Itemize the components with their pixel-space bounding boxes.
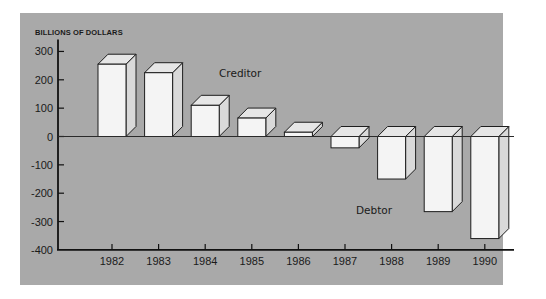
y-tick-label: 200 — [35, 74, 53, 86]
bar-1984 — [191, 95, 229, 136]
x-tick-label: 1986 — [286, 255, 310, 267]
y-tick-label: -200 — [31, 187, 53, 199]
chart-figure: BILLIONS OF DOLLARS 3002001000-100-200-3… — [0, 0, 546, 299]
y-tick-label: 0 — [47, 131, 53, 143]
y-tick-label: -400 — [31, 244, 53, 256]
bar-1989 — [424, 127, 462, 212]
bar-1983 — [145, 63, 183, 137]
bar-front-face — [238, 118, 266, 136]
x-tick-label: 1983 — [146, 255, 170, 267]
bar-1982 — [98, 54, 136, 136]
y-tick-label: -300 — [31, 216, 53, 228]
x-tick-label: 1984 — [193, 255, 217, 267]
bar-front-face — [191, 105, 219, 136]
debtor-label: Debtor — [356, 204, 393, 216]
y-tick-label: 300 — [35, 45, 53, 57]
bar-front-face — [145, 73, 173, 137]
bar-side-face — [126, 54, 136, 136]
bar-1990 — [471, 127, 509, 239]
x-tick-label: 1990 — [473, 255, 497, 267]
x-tick-label: 1988 — [379, 255, 403, 267]
x-tick-label: 1985 — [240, 255, 264, 267]
y-tick-label: -100 — [31, 159, 53, 171]
bar-front-face — [424, 137, 452, 212]
bar-front-face — [98, 64, 126, 136]
bar-front-face — [378, 137, 406, 180]
x-tick-label: 1987 — [333, 255, 357, 267]
x-tick-label: 1982 — [100, 255, 124, 267]
creditor-label: Creditor — [219, 67, 262, 79]
bar-front-face — [471, 137, 499, 239]
y-tick-label: 100 — [35, 102, 53, 114]
bar-side-face — [499, 127, 509, 239]
bar-1988 — [378, 127, 416, 180]
x-tick-label: 1989 — [426, 255, 450, 267]
bar-side-face — [173, 63, 183, 137]
bar-1985 — [238, 108, 276, 136]
bar-chart: BILLIONS OF DOLLARS 3002001000-100-200-3… — [0, 0, 546, 299]
bar-front-face — [331, 137, 359, 148]
bar-front-face — [284, 132, 312, 136]
y-axis-title: BILLIONS OF DOLLARS — [35, 28, 123, 37]
bar-side-face — [452, 127, 462, 212]
